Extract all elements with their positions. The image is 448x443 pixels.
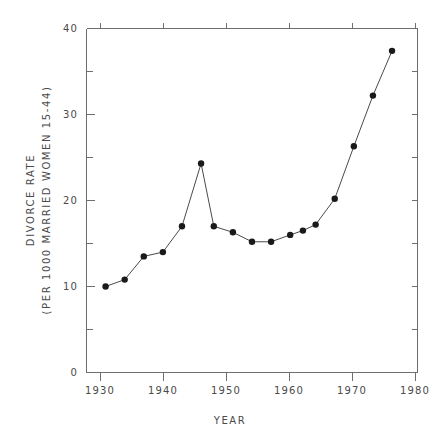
x-axis-tick-labels: 1930 1940 1950 1960 1970 1980 xyxy=(85,385,430,396)
data-point xyxy=(249,239,255,245)
x-axis-title: YEAR xyxy=(213,415,247,426)
axis-frame-rect xyxy=(87,29,418,373)
series-line xyxy=(106,51,392,287)
data-point xyxy=(287,232,293,238)
data-point xyxy=(332,196,338,202)
data-point xyxy=(121,276,127,282)
data-point xyxy=(198,160,204,166)
x-tick-label-1940: 1940 xyxy=(148,385,178,396)
plot-frame xyxy=(87,29,418,373)
data-point xyxy=(102,283,108,289)
chart-svg: 0 10 20 30 40 1930 1940 1950 1960 1970 1… xyxy=(0,0,448,443)
y-axis-title-line2: (PER 1000 MARRIED WOMEN 15-44) xyxy=(41,86,52,315)
data-point xyxy=(389,48,395,54)
y-axis-right-ticks xyxy=(412,72,418,330)
data-point xyxy=(351,143,357,149)
data-point xyxy=(160,249,166,255)
x-tick-label-1980: 1980 xyxy=(400,385,430,396)
x-tick-label-1970: 1970 xyxy=(337,385,367,396)
y-tick-label-30: 30 xyxy=(63,109,78,120)
y-tick-label-40: 40 xyxy=(63,23,78,34)
x-axis-ticks-top xyxy=(101,23,416,29)
x-tick-label-1950: 1950 xyxy=(211,385,241,396)
data-point xyxy=(211,223,217,229)
data-series-divorce-rate xyxy=(102,48,395,290)
data-point xyxy=(141,253,147,259)
data-point xyxy=(370,92,376,98)
x-tick-label-1930: 1930 xyxy=(85,385,115,396)
y-axis-title-line1: DIVORCE RATE xyxy=(25,154,36,246)
x-axis-ticks-bottom xyxy=(101,373,416,381)
data-point xyxy=(179,223,185,229)
y-axis-tick-labels: 0 10 20 30 40 xyxy=(63,23,78,378)
data-point xyxy=(230,229,236,235)
data-point xyxy=(312,221,318,227)
series-markers-group xyxy=(102,48,395,290)
y-tick-label-0: 0 xyxy=(71,367,78,378)
data-point xyxy=(268,239,274,245)
divorce-rate-line-chart: 0 10 20 30 40 1930 1940 1950 1960 1970 1… xyxy=(0,0,448,443)
y-tick-label-20: 20 xyxy=(63,195,78,206)
y-tick-label-10: 10 xyxy=(63,281,78,292)
data-point xyxy=(300,227,306,233)
y-axis-major-ticks xyxy=(87,29,95,373)
x-tick-label-1960: 1960 xyxy=(274,385,304,396)
